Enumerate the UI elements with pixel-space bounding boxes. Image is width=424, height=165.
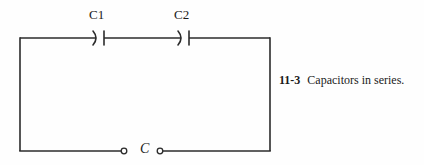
figure-page: C1 C2 C 11-3Capacitors in series. — [0, 0, 424, 165]
figure-caption-text: Capacitors in series. — [307, 73, 404, 87]
figure-number: 11-3 — [279, 73, 300, 87]
terminal-capacitance-label: C — [140, 141, 149, 157]
figure-caption: 11-3Capacitors in series. — [279, 73, 419, 88]
capacitor-c1-label: C1 — [89, 7, 104, 23]
terminal-node-right[interactable] — [157, 148, 163, 154]
circuit-diagram: C1 C2 C — [0, 0, 290, 165]
capacitor-c2-label: C2 — [174, 7, 189, 23]
terminal-node-left[interactable] — [121, 148, 127, 154]
